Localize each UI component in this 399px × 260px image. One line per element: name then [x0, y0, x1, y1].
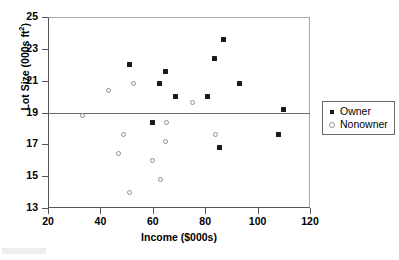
data-point-nonowner	[190, 100, 195, 105]
y-axis-tick-label: 15	[12, 170, 38, 181]
data-point-owner	[173, 94, 178, 99]
data-point-owner	[150, 120, 155, 125]
x-axis-tick	[48, 208, 49, 214]
x-axis-tick-label: 120	[290, 216, 330, 227]
data-point-nonowner	[158, 177, 163, 182]
data-point-owner	[212, 56, 217, 61]
x-axis-title: Income ($000s)	[48, 231, 310, 243]
x-axis-tick-label: 80	[185, 216, 225, 227]
y-axis-tick-label: 19	[12, 107, 38, 118]
data-point-nonowner	[131, 81, 136, 86]
y-axis-title-exponent: 2	[17, 26, 26, 30]
legend-label-owner: Owner	[340, 106, 371, 117]
data-point-nonowner	[116, 151, 121, 156]
legend-label-nonowner: Nonowner	[340, 119, 388, 130]
x-axis-tick	[205, 208, 206, 214]
x-axis-tick-label: 100	[238, 216, 278, 227]
data-point-owner	[237, 81, 242, 86]
y-axis-tick-label: 21	[12, 75, 38, 86]
data-point-nonowner	[164, 120, 169, 125]
reference-line	[48, 113, 310, 114]
x-axis-tick	[100, 208, 101, 214]
data-point-owner	[281, 107, 286, 112]
data-point-nonowner	[150, 158, 155, 163]
x-axis-tick	[258, 208, 259, 214]
y-axis-tick-label: 13	[12, 202, 38, 213]
legend-marker-filled-square-icon	[327, 110, 337, 114]
x-axis-tick-label: 20	[28, 216, 68, 227]
data-point-nonowner	[121, 132, 126, 137]
y-axis-tick-label: 23	[12, 43, 38, 54]
y-axis-tick-label: 25	[12, 11, 38, 22]
scan-artifact	[2, 248, 46, 254]
y-axis-tick	[42, 81, 48, 82]
data-point-owner	[157, 81, 162, 86]
data-point-owner	[217, 145, 222, 150]
data-point-nonowner	[127, 190, 132, 195]
x-axis-tick-label: 40	[80, 216, 120, 227]
data-point-nonowner	[106, 88, 111, 93]
data-point-owner	[127, 62, 132, 67]
x-axis-tick	[310, 208, 311, 214]
legend-item-nonowner[interactable]: Nonowner	[327, 118, 388, 131]
x-axis-tick	[153, 208, 154, 214]
data-point-nonowner	[163, 139, 168, 144]
data-point-nonowner	[80, 113, 85, 118]
y-axis-tick	[42, 113, 48, 114]
data-point-nonowner	[213, 132, 218, 137]
y-axis-title-tail: )	[19, 23, 31, 27]
data-point-owner	[276, 132, 281, 137]
chart-legend: Owner Nonowner	[322, 101, 395, 135]
y-axis-tick	[42, 17, 48, 18]
y-axis-tick	[42, 49, 48, 50]
y-axis-tick	[42, 176, 48, 177]
plot-area	[48, 17, 310, 208]
legend-item-owner[interactable]: Owner	[327, 105, 388, 118]
legend-marker-open-circle-icon	[327, 122, 337, 128]
scatter-plot-figure: Lot Size (000s ft2) Income ($000s) Owner…	[0, 0, 399, 260]
data-point-owner	[205, 94, 210, 99]
x-axis-tick-label: 60	[133, 216, 173, 227]
y-axis-tick-label: 17	[12, 138, 38, 149]
data-point-owner	[221, 37, 226, 42]
y-axis-tick	[42, 144, 48, 145]
data-point-owner	[163, 69, 168, 74]
